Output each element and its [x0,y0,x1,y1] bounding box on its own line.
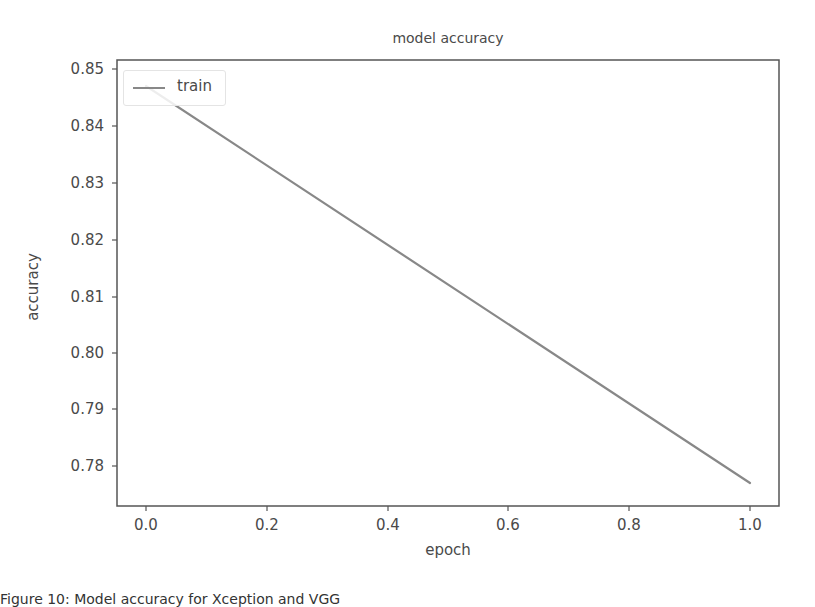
y-tick-label: 0.82 [48,231,104,249]
y-axis-label: accuracy [24,242,42,332]
x-tick-label: 0.6 [483,516,533,534]
y-tick-label: 0.80 [48,344,104,362]
x-tick-label: 0.0 [121,516,171,534]
x-tick-label: 0.2 [242,516,292,534]
series-line-train [146,86,750,483]
x-axis-label: epoch [117,541,779,559]
x-tick-label: 0.4 [363,516,413,534]
y-tick-label: 0.81 [48,288,104,306]
legend-swatch-train [133,87,165,89]
legend-label-train: train [177,77,212,95]
y-tick-label: 0.84 [48,117,104,135]
axes-frame [117,60,779,506]
y-tick-label: 0.85 [48,60,104,78]
y-tick-label: 0.79 [48,400,104,418]
y-tick-label: 0.78 [48,457,104,475]
x-tick-label: 1.0 [725,516,775,534]
x-tick-label: 0.8 [604,516,654,534]
figure-caption: Figure 10: Model accuracy for Xception a… [0,591,340,607]
y-tick-label: 0.83 [48,174,104,192]
legend: train [123,70,226,106]
